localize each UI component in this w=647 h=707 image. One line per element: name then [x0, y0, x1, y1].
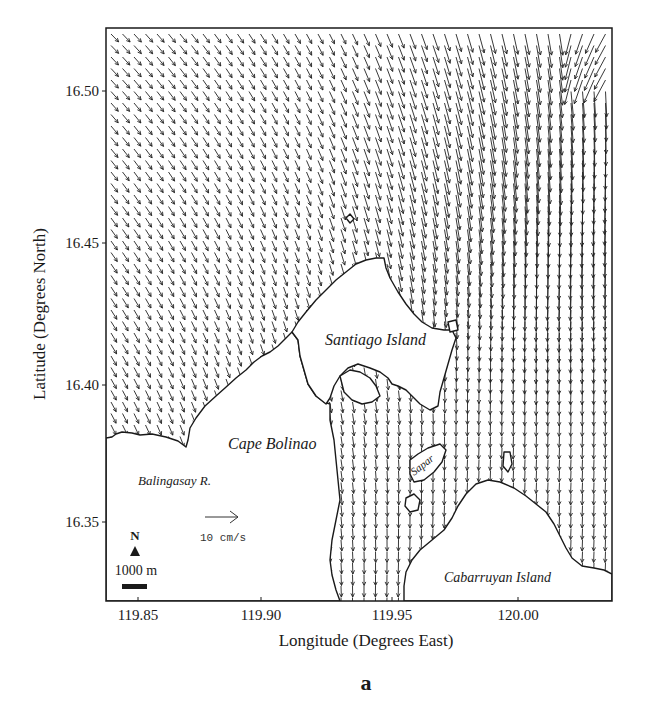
scale-bar-label: 1000 m — [115, 563, 158, 578]
y-tick-label: 16.45 — [65, 235, 99, 251]
y-tick-label: 16.40 — [65, 377, 99, 393]
x-tick-label: 119.90 — [241, 607, 282, 623]
figure: 119.85 119.90 119.95 120.00 16.50 16.45 … — [0, 0, 647, 707]
label-balingasay-river: Balingasay R. — [138, 473, 211, 488]
land-tiny-islet-north — [346, 214, 354, 223]
land-inner-peninsula — [340, 370, 380, 404]
north-label: N — [130, 528, 140, 543]
label-santiago-island: Santiago Island — [325, 331, 427, 349]
label-cabarruyan-island: Cabarruyan Island — [444, 570, 552, 585]
y-tick-label: 16.50 — [65, 83, 99, 99]
land-small-islet-a — [405, 494, 420, 512]
x-axis-title: Longitude (Degrees East) — [279, 631, 454, 650]
x-tick-label: 120.00 — [497, 607, 538, 623]
y-axis-title: Latitude (Degrees North) — [30, 228, 49, 400]
land-small-islet-east — [448, 320, 458, 332]
y-tick-label: 16.35 — [65, 514, 99, 530]
scale-bar — [122, 584, 147, 589]
label-cape-bolinao: Cape Bolinao — [228, 435, 316, 453]
panel-label: a — [361, 670, 372, 695]
x-tick-label: 119.85 — [118, 607, 159, 623]
x-tick-label: 119.95 — [372, 607, 413, 623]
land-small-islet-b — [503, 452, 512, 472]
reference-vector-label: 10 cm/s — [200, 532, 246, 544]
